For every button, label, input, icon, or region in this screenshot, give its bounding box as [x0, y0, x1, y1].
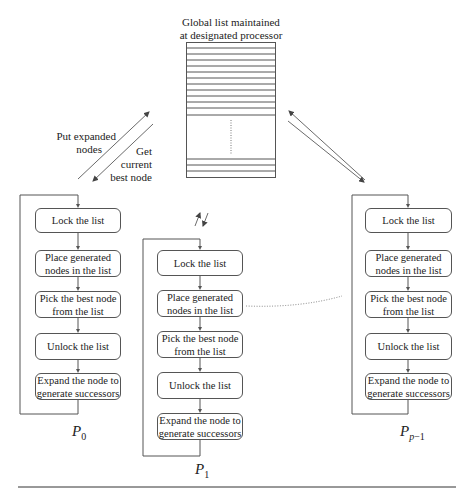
step-text: Place generated	[167, 291, 233, 304]
step-text: generate successors	[367, 387, 450, 400]
global-list-title-line1: Global list maintained	[170, 16, 292, 29]
step-text: Expand the node to	[159, 414, 240, 427]
global-list-table	[186, 43, 276, 178]
global-list-title: Global list maintained at designated pro…	[170, 16, 292, 42]
proc-name: P	[400, 423, 409, 439]
middle-exchange-arrows	[195, 213, 208, 226]
step-text: from the list	[383, 305, 434, 318]
step-text: Expand the node to	[37, 374, 118, 387]
pp1-label: Pp−1	[400, 423, 425, 442]
get-current-best-node-label: Get current best node	[100, 145, 152, 184]
p1-step-unlock: Unlock the list	[157, 372, 243, 399]
step-text: Expand the node to	[368, 374, 449, 387]
proc-subscript: 0	[81, 431, 86, 442]
step-text: generate successors	[159, 427, 242, 440]
p1-label: P1	[195, 461, 209, 480]
put-label-line1: Put expanded	[44, 130, 116, 143]
step-text: Pick the best node	[40, 292, 117, 305]
step-text: Unlock the list	[47, 340, 109, 353]
step-text: generate successors	[37, 387, 120, 400]
pp1-step-expand: Expand the node to generate successors	[365, 373, 452, 400]
proc-name: P	[72, 423, 81, 439]
step-text: nodes in the list	[167, 304, 233, 317]
p1-step-place: Place generated nodes in the list	[157, 290, 243, 317]
p0-step-unlock: Unlock the list	[35, 333, 121, 360]
get-label-line2: current	[100, 158, 152, 171]
step-text: Lock the list	[382, 214, 435, 227]
proc-subscript: p−1	[409, 431, 425, 442]
get-label-line1: Get	[100, 145, 152, 158]
step-text: Pick the best node	[162, 332, 239, 345]
p1-step-expand: Expand the node to generate successors	[157, 413, 243, 440]
step-text: Pick the best node	[370, 292, 447, 305]
p1-step-lock: Lock the list	[157, 250, 243, 276]
p0-label: P0	[72, 423, 86, 442]
proc-subscript: 1	[204, 469, 209, 480]
step-text: nodes in the list	[45, 264, 111, 277]
pp1-step-pick: Pick the best node from the list	[365, 291, 452, 318]
step-text: from the list	[174, 345, 225, 358]
global-list-title-line2: at designated processor	[170, 29, 292, 42]
p0-step-pick: Pick the best node from the list	[35, 291, 121, 318]
p1-step-pick: Pick the best node from the list	[157, 331, 243, 358]
step-text: Place generated	[375, 251, 441, 264]
pp1-step-unlock: Unlock the list	[365, 333, 452, 360]
pp1-step-lock: Lock the list	[365, 208, 452, 233]
right-exchange-arrows	[288, 111, 365, 182]
p0-step-place: Place generated nodes in the list	[35, 250, 121, 277]
proc-subscript-rest: −1	[414, 431, 425, 442]
p0-step-expand: Expand the node to generate successors	[35, 373, 121, 400]
step-text: Unlock the list	[169, 379, 231, 392]
p0-step-lock: Lock the list	[35, 208, 121, 233]
step-text: Lock the list	[174, 257, 227, 270]
step-text: Unlock the list	[378, 340, 440, 353]
pp1-step-place: Place generated nodes in the list	[365, 250, 452, 277]
step-text: Place generated	[45, 251, 111, 264]
step-text: nodes in the list	[375, 264, 441, 277]
step-text: Lock the list	[52, 214, 105, 227]
step-text: from the list	[52, 305, 103, 318]
ellipsis-dotted-curve	[246, 296, 342, 306]
get-label-line3: best node	[100, 171, 152, 184]
proc-name: P	[195, 461, 204, 477]
